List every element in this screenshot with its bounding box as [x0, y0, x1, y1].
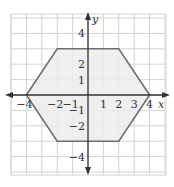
- y-axis-label: y: [91, 13, 99, 26]
- y-tick-label: 4: [78, 27, 85, 40]
- left-arrow-icon: [5, 92, 13, 98]
- x-tick-label: 4: [146, 98, 153, 111]
- x-tick-label: 2: [115, 98, 122, 111]
- y-tick-label: 1: [78, 74, 85, 87]
- coordinate-plane: −4−2−11234421−1−2−4 x y: [0, 0, 174, 187]
- y-tick-label: −2: [69, 120, 85, 133]
- y-tick-label: −1: [69, 104, 85, 117]
- y-tick-label: −4: [69, 151, 85, 164]
- x-tick-label: 3: [131, 98, 138, 111]
- y-tick-label: 2: [78, 58, 85, 71]
- x-tick-label: −4: [16, 98, 32, 111]
- x-tick-label: 1: [100, 98, 107, 111]
- x-tick-label: −2: [47, 98, 63, 111]
- x-axis-label: x: [158, 98, 165, 111]
